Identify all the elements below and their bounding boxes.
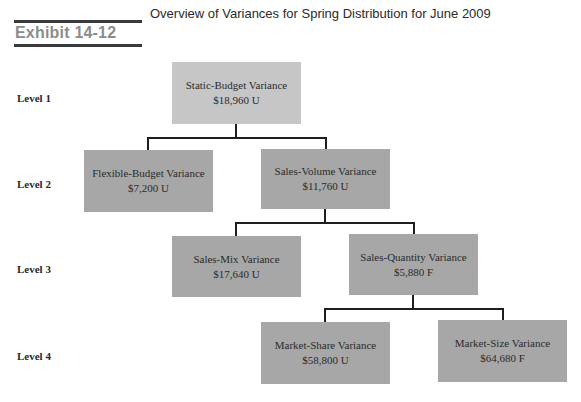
sales-mix-variance-box: Sales-Mix Variance $17,640 U [172,236,301,297]
node-name: Flexible-Budget Variance [92,166,205,181]
flexible-budget-variance-box: Flexible-Budget Variance $7,200 U [84,150,213,212]
node-value: $17,640 U [213,267,259,282]
connector-l2-right-drop [325,137,327,149]
node-value: $11,760 U [302,179,348,194]
level-2-label: Level 2 [17,178,51,190]
sales-quantity-variance-box: Sales-Quantity Variance $5,880 F [349,234,478,295]
connector-l1-bar [147,137,327,139]
diagram-title: Overview of Variances for Spring Distrib… [150,6,491,21]
sales-volume-variance-box: Sales-Volume Variance $11,760 U [261,149,390,209]
market-size-variance-box: Market-Size Variance $64,680 F [438,320,567,382]
node-name: Sales-Mix Variance [193,252,279,267]
node-name: Static-Budget Variance [186,78,288,93]
connector-l2-bar [235,222,415,224]
node-value: $58,800 U [302,353,348,368]
level-4-label: Level 4 [17,350,51,362]
static-budget-variance-box: Static-Budget Variance $18,960 U [172,62,301,124]
connector-l3-left-drop [235,222,237,236]
connector-l3-right-drop [413,222,415,234]
market-share-variance-box: Market-Share Variance $58,800 U [261,322,390,384]
connector-l4-right-drop [502,308,504,320]
exhibit-top-rule [14,20,142,23]
node-name: Market-Size Variance [455,336,550,351]
node-value: $64,680 F [480,351,525,366]
node-value: $18,960 U [213,93,259,108]
node-value: $7,200 U [128,181,169,196]
level-1-label: Level 1 [17,92,51,104]
node-name: Sales-Quantity Variance [360,250,466,265]
node-name: Market-Share Variance [275,338,377,353]
node-name: Sales-Volume Variance [275,164,377,179]
connector-l4-left-drop [324,308,326,322]
node-value: $5,880 F [394,265,433,280]
exhibit-bottom-rule [14,44,142,47]
exhibit-label: Exhibit 14-12 [15,24,116,42]
connector-l3-bar [324,308,504,310]
connector-l2-left-drop [147,137,149,150]
level-3-label: Level 3 [17,263,51,275]
